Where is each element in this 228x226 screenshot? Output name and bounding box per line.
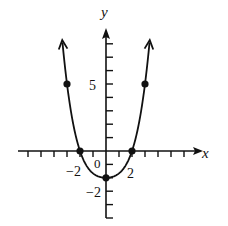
data-point — [102, 174, 109, 181]
axes — [18, 28, 203, 218]
data-point — [76, 147, 83, 154]
data-point — [128, 147, 135, 154]
origin-label: 0 — [94, 156, 101, 171]
data-point — [63, 80, 70, 87]
y-tick-label-5: 5 — [89, 78, 96, 93]
x-tick-label-neg2: −2 — [66, 164, 81, 179]
x-axis-label: x — [201, 145, 209, 161]
x-tick-label-2: 2 — [127, 166, 134, 181]
y-axis-label: y — [99, 4, 108, 20]
function-graph: x y 5 −2 −2 2 0 — [0, 0, 228, 226]
data-point — [141, 80, 148, 87]
y-tick-label-neg2: −2 — [86, 185, 101, 200]
